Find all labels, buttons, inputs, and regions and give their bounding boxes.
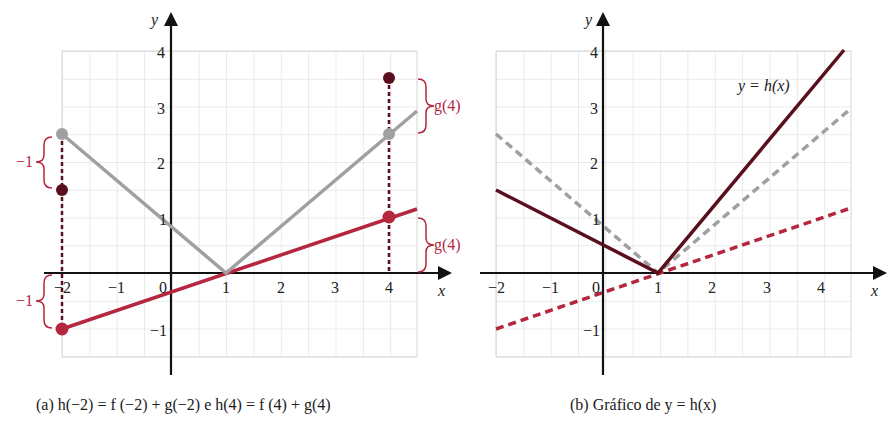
x-arrow-icon xyxy=(873,266,887,280)
panel-b: −2 −1 0 1 2 3 4 4 3 2 1 −1 x y y = h(x) xyxy=(480,11,887,375)
y-tick-b: −1 xyxy=(583,322,600,339)
y-tick-a: 1 xyxy=(159,211,167,228)
point-h-minus2 xyxy=(56,184,68,196)
y-tick-b: 1 xyxy=(592,211,600,228)
y-tick-b: 4 xyxy=(590,44,598,61)
point-f-4 xyxy=(383,128,395,140)
x-tick-a: −2 xyxy=(54,279,71,296)
x-tick-b: 2 xyxy=(708,279,716,296)
y-axis-label-a: y xyxy=(149,11,159,29)
panel-a: −2 −1 0 1 2 3 4 4 3 2 1 −1 x y −1 −1 g(4… xyxy=(16,11,461,375)
y-arrow-icon xyxy=(596,12,610,26)
point-h-4 xyxy=(383,72,395,84)
x-tick-b: −2 xyxy=(488,279,505,296)
brace-left-upper-icon xyxy=(36,137,52,188)
x-tick-a: −1 xyxy=(108,279,125,296)
annotation-left-lower: −1 xyxy=(16,292,33,309)
caption-a: (a) h(−2) = f (−2) + g(−2) e h(4) = f (4… xyxy=(36,396,331,414)
y-tick-b: 2 xyxy=(590,155,598,172)
x-tick-b: −1 xyxy=(542,279,559,296)
x-tick-a: 4 xyxy=(385,279,393,296)
brace-left-lower-icon xyxy=(36,275,52,328)
brace-right-lower-icon xyxy=(418,218,434,272)
annotation-right-lower: g(4) xyxy=(434,236,461,254)
x-tick-a: 2 xyxy=(277,279,285,296)
x-axis-label-b: x xyxy=(870,282,878,299)
x-tick-b: 4 xyxy=(817,279,825,296)
annotation-left-upper: −1 xyxy=(16,153,33,170)
x-tick-b: 0 xyxy=(592,279,600,296)
annotation-right-upper: g(4) xyxy=(434,97,461,115)
x-axis-label-a: x xyxy=(437,282,445,299)
y-arrow-icon xyxy=(164,12,178,26)
x-arrow-icon xyxy=(438,266,452,280)
curve-label-h: y = h(x) xyxy=(736,77,790,95)
y-tick-a: 2 xyxy=(157,155,165,172)
point-g-minus2 xyxy=(56,323,69,336)
y-tick-a: −1 xyxy=(150,322,167,339)
x-tick-a: 0 xyxy=(159,279,167,296)
x-tick-b: 1 xyxy=(654,279,662,296)
point-g-4 xyxy=(383,211,396,224)
caption-b: (b) Gráfico de y = h(x) xyxy=(570,396,716,414)
point-f-minus2 xyxy=(56,128,68,140)
x-tick-a: 1 xyxy=(222,279,230,296)
brace-right-upper-icon xyxy=(418,79,434,133)
figure: −2 −1 0 1 2 3 4 4 3 2 1 −1 x y −1 −1 g(4… xyxy=(0,0,888,431)
y-axis-label-b: y xyxy=(583,11,593,29)
y-tick-a: 4 xyxy=(157,44,165,61)
x-tick-a: 3 xyxy=(331,279,339,296)
y-tick-b: 3 xyxy=(590,100,598,117)
y-tick-a: 3 xyxy=(157,100,165,117)
x-tick-b: 3 xyxy=(763,279,771,296)
